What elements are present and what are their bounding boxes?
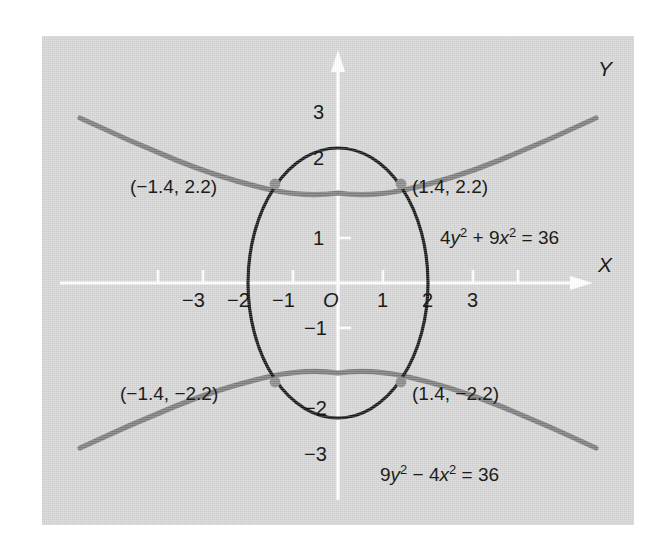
y-tick-label-pos1: 1 [313,228,324,248]
ellipse-exp-x: 2 [509,225,516,240]
point-lower-right [396,377,407,388]
hyperbola-exp-y: 2 [400,462,407,477]
x-axis [60,276,593,290]
ellipse-operator: + [473,227,484,248]
point-upper-left [270,179,281,190]
point-label-upper-left: (−1.4, 2.2) [130,177,217,196]
ellipse-coef-y: 4 [440,227,451,248]
hyperbola-var-x: x [440,464,450,485]
point-lower-left [270,377,281,388]
x-tick-label-neg2: −2 [227,290,250,310]
graph-panel: Y X O −3 −2 −1 1 2 3 3 2 1 −1 −2 −3 (−1.… [42,36,634,525]
hyperbola-coef-x: 4 [429,464,440,485]
y-axis [331,50,345,500]
y-tick-label-pos2: 2 [313,148,324,168]
x-tick-label-pos1: 1 [377,290,388,310]
y-axis-label: Y [598,58,612,79]
x-axis-label: X [598,254,612,275]
ellipse-equals: = [521,227,532,248]
x-tick-label-neg1: −1 [272,290,295,310]
point-label-lower-left: (−1.4, −2.2) [120,384,218,403]
ellipse-coef-x: 9 [489,227,500,248]
x-tick-label-neg3: −3 [182,290,205,310]
figure-root: Y X O −3 −2 −1 1 2 3 3 2 1 −1 −2 −3 (−1.… [0,0,661,557]
equation-ellipse: 4y2 + 9x2 = 36 [440,228,559,247]
graph-canvas [42,36,634,525]
y-tick-label-neg3: −3 [304,444,327,464]
hyperbola-exp-x: 2 [449,462,456,477]
y-tick-label-neg2: −2 [304,398,327,418]
y-tick-label-pos3: 3 [313,102,324,122]
equation-hyperbola: 9y2 − 4x2 = 36 [380,465,499,484]
ellipse-var-x: x [500,227,510,248]
hyperbola-equals: = [461,464,472,485]
point-upper-right [396,179,407,190]
x-tick-label-pos2: 2 [422,290,433,310]
ellipse-rhs: 36 [538,227,559,248]
hyperbola-var-y: y [391,464,401,485]
ellipse-exp-y: 2 [460,225,467,240]
y-tick-label-neg1: −1 [304,318,327,338]
point-label-lower-right: (1.4, −2.2) [412,384,499,403]
hyperbola-rhs: 36 [478,464,499,485]
hyperbola-operator: − [413,464,424,485]
hyperbola-coef-y: 9 [380,464,391,485]
origin-label: O [323,290,339,310]
x-tick-label-pos3: 3 [467,290,478,310]
ellipse-var-y: y [451,227,461,248]
point-label-upper-right: (1.4, 2.2) [412,177,488,196]
